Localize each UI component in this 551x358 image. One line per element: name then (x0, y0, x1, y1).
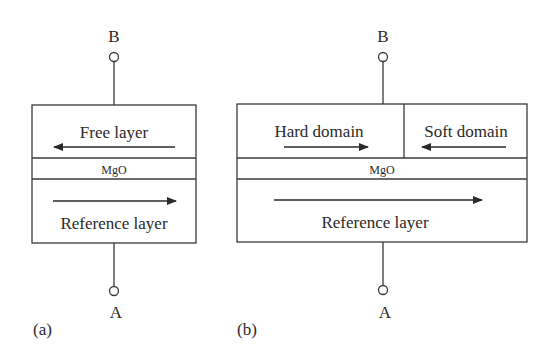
mgo-label-a: MgO (101, 163, 127, 177)
reference-layer-label-b: Reference layer (321, 213, 428, 232)
terminal-a-node-a (110, 287, 119, 296)
terminal-a-node-b (379, 286, 388, 295)
panel-b-caption: (b) (237, 320, 257, 339)
terminal-a-label-b: A (379, 303, 392, 322)
hard-domain-label: Hard domain (274, 122, 364, 141)
mgo-label-b: MgO (369, 163, 395, 177)
panel-a: B Free layer MgO Reference layer A (a) (32, 27, 196, 339)
panel-a-caption: (a) (33, 320, 52, 339)
terminal-a-label-a: A (110, 303, 123, 322)
terminal-b-label-b: B (377, 27, 388, 46)
terminal-b-node-b (379, 53, 388, 62)
terminal-b-label-a: B (108, 27, 119, 46)
panel-b: B Hard domain Soft domain MgO Reference … (237, 27, 527, 339)
reference-layer-label-a: Reference layer (60, 214, 167, 233)
soft-domain-label: Soft domain (424, 122, 508, 141)
terminal-b-node-a (110, 53, 119, 62)
free-layer-label: Free layer (80, 123, 149, 142)
mtj-diagram: B Free layer MgO Reference layer A (a) B (0, 0, 551, 358)
